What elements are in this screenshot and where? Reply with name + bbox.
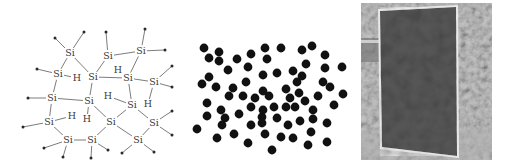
particle [284,121,293,130]
si-si-bond [90,83,92,95]
particle [308,42,317,51]
photo-svg [355,0,510,167]
particle [339,90,348,99]
terminal-atom [144,28,147,31]
particle [286,94,295,103]
si-si-bond [114,52,135,55]
particle [338,63,347,72]
particle [277,133,286,142]
terminal-atom [171,65,174,68]
particle [200,44,209,53]
si-si-bond [131,56,139,72]
terminal-bond [44,142,62,148]
photo-shed-roof [361,40,379,43]
particle [295,89,304,98]
terminal-atom [54,37,57,40]
si-atom-label: Si [87,134,97,145]
particle [247,50,256,59]
particle [242,78,251,87]
terminal-atom [105,31,108,34]
terminal-bond [147,50,165,51]
particle [282,103,291,112]
si-atom-label: Si [44,116,54,127]
terminal-atom [153,151,156,154]
particle [217,106,226,115]
terminal-atom [121,152,124,155]
si-atom-label: Si [136,45,146,56]
si-atom-label: Si [149,117,159,128]
si-atom-label: Si [65,47,75,58]
particle [314,92,323,101]
particle [298,46,307,55]
si-atom-label: Si [103,50,113,61]
h-atom-label: H [68,110,76,121]
terminal-bond [55,38,66,49]
terminal-bond [91,146,92,158]
particle [270,103,279,112]
terminal-bond [158,66,172,78]
h-atom-label: H [114,64,122,75]
particle [215,57,224,66]
h-atom-label: H [144,98,152,109]
si-h-bond [112,98,126,103]
si-si-bond [61,58,67,69]
terminal-atom [90,157,93,160]
si-si-bond [116,109,128,118]
si-si-bond [129,84,131,99]
terminal-atom [83,31,86,34]
particle [251,94,260,103]
si-si-bond [74,57,89,72]
particle [205,73,214,82]
particle [193,125,202,134]
particle [323,119,332,128]
particle [301,97,310,106]
particle [277,44,286,53]
solar-panel-photo [355,0,510,167]
si-si-bond [116,125,133,136]
si-atom-label: Si [63,134,73,145]
particle [261,44,270,53]
particle [259,71,268,80]
random-particles-diagram [185,0,355,167]
particle [273,114,282,123]
si-si-bond [50,104,52,116]
si-atom-label: Si [53,68,63,79]
si-h-bond [55,117,68,120]
h-atom-label: H [104,90,112,101]
particle [224,66,233,75]
particle [321,51,330,60]
particle [268,146,277,155]
terminal-bond [160,84,172,87]
terminal-atom [22,126,25,129]
particle [203,112,212,121]
particle [244,139,253,148]
particle [205,54,214,63]
si-atom-label: Si [106,116,116,127]
terminal-atom [43,147,46,150]
si-si-bond [53,126,63,136]
terminal-bond [159,111,172,120]
si-si-bond [93,105,106,118]
particle [293,78,302,87]
terminal-atom [171,134,174,137]
terminal-bond [97,143,108,150]
si-atom-label: Si [133,134,143,145]
particle [215,48,224,57]
particle [282,85,291,94]
molecule-svg: SiSiSiSiSiSiSiSiSiSiSiSiSiSiSiSiHHHHHH [0,0,185,167]
particle [323,138,332,147]
particle [230,130,239,139]
particle [326,83,335,92]
si-si-bond [53,80,56,92]
si-atom-label: Si [149,76,159,87]
si-atom-label: Si [123,72,133,83]
particle [289,134,298,143]
particle [321,64,330,73]
si-si-bond [142,127,150,135]
particle [296,117,305,126]
terminal-bond [23,123,43,127]
terminal-atom [171,110,174,113]
terminal-bond [106,32,108,50]
particle [263,55,272,64]
terminal-bond [73,32,84,48]
